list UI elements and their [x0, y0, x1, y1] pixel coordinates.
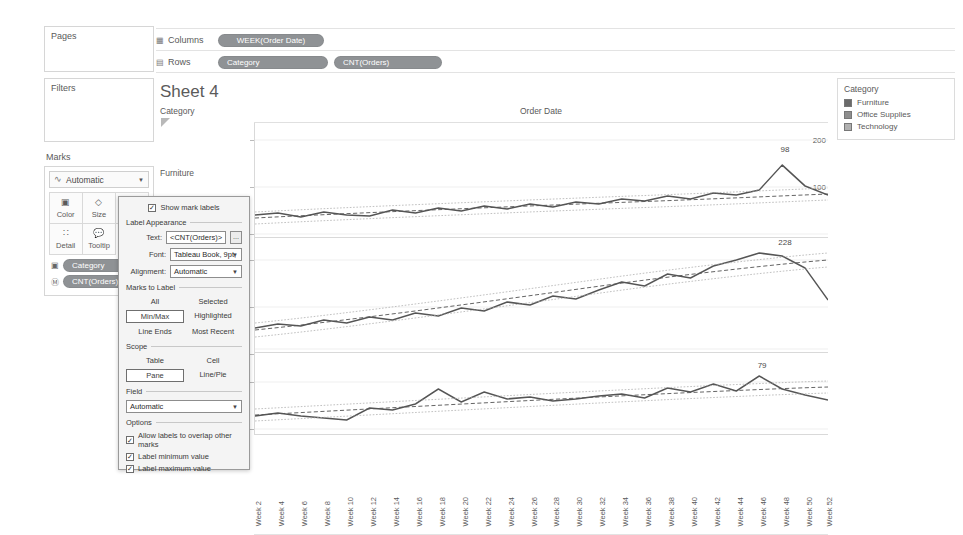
x-tick-label: Week 40: [690, 497, 699, 526]
filters-label: Filters: [45, 79, 153, 96]
x-tick-label: Week 30: [575, 497, 584, 526]
text-edit-ellipsis-button[interactable]: ⋯: [230, 231, 242, 244]
marks-size-button[interactable]: ◇ Size: [82, 192, 116, 224]
x-tick-label: Week 8: [323, 501, 332, 526]
label-icon: Ⓜ: [49, 276, 60, 287]
marks-color-label: Color: [57, 210, 75, 219]
marks-detail-button[interactable]: ∷ Detail: [49, 223, 83, 255]
columns-shelf-bottom-divider: [156, 50, 955, 51]
furniture-line-chart: [255, 123, 828, 237]
scope-option-pane[interactable]: Pane: [126, 369, 184, 382]
scope-options: Table Cell Pane Line/Pie: [126, 355, 242, 382]
x-tick-label: Week 32: [598, 497, 607, 526]
marks-to-label-option-most-recent[interactable]: Most Recent: [184, 326, 242, 337]
marks-to-label-option-all[interactable]: All: [126, 296, 184, 307]
rows-pill-cnt-orders[interactable]: CNT(Orders): [334, 56, 442, 69]
x-tick-label: Week 4: [277, 501, 286, 526]
x-tick-label: Week 42: [713, 497, 722, 526]
x-tick-label: Week 14: [392, 497, 401, 526]
mark-type-dropdown[interactable]: ∿ Automatic ▼: [49, 171, 149, 188]
label-minimum-label: Label minimum value: [138, 452, 209, 461]
rows-shelf-label-wrap: ▤ Rows: [156, 57, 218, 67]
pages-card[interactable]: Pages: [44, 26, 154, 72]
marks-to-label-option-highlighted[interactable]: Highlighted: [184, 310, 242, 323]
x-tick-label: Week 34: [621, 497, 630, 526]
rows-label: Rows: [168, 57, 191, 67]
filters-card[interactable]: Filters: [44, 78, 154, 142]
option-allow-overlap-row[interactable]: ✓ Allow labels to overlap other marks: [126, 431, 242, 449]
detail-icon: ∷: [63, 228, 69, 239]
columns-shelf[interactable]: ▦ Columns WEEK(Order Date): [156, 30, 324, 50]
label-minimum-checkbox[interactable]: ✓: [126, 453, 134, 461]
x-tick-label: Week 18: [438, 497, 447, 526]
marks-to-label-option-selected[interactable]: Selected: [184, 296, 242, 307]
x-tick-label: Week 52: [825, 497, 834, 526]
show-mark-labels-checkbox[interactable]: ✓: [148, 204, 156, 212]
font-field-row[interactable]: Font: Tableau Book, 9pt, ▼: [126, 248, 242, 261]
columns-icon: ▦: [156, 36, 164, 45]
legend-label: Technology: [857, 122, 897, 131]
columns-shelf-label-wrap: ▦ Columns: [156, 35, 218, 45]
row-label-furniture[interactable]: Furniture: [160, 168, 194, 178]
category-field-header[interactable]: Category: [160, 106, 195, 116]
x-tick-label: Week 6: [300, 501, 309, 526]
worksheet-view: Sheet 4 Category Order Date Count of Ord…: [156, 82, 828, 507]
scope-option-line-pie[interactable]: Line/Pie: [184, 369, 242, 382]
columns-pill-week-order-date[interactable]: WEEK(Order Date): [218, 34, 324, 47]
text-field-label: Text:: [126, 233, 162, 242]
scope-group: Scope Table Cell Pane Line/Pie: [126, 342, 242, 382]
marks-to-label-option-line-ends[interactable]: Line Ends: [126, 326, 184, 337]
x-tick-label: Week 48: [782, 497, 791, 526]
text-field-row[interactable]: Text: <CNT(Orders)> ⋯: [126, 231, 242, 244]
x-tick-label: Week 16: [415, 497, 424, 526]
x-tick-label: Week 12: [369, 497, 378, 526]
font-field-dropdown[interactable]: Tableau Book, 9pt, ▼: [170, 248, 242, 261]
show-mark-labels-row[interactable]: ✓ Show mark labels: [126, 203, 242, 212]
x-tick-label: Week 38: [667, 497, 676, 526]
marks-color-button[interactable]: ▣ Color: [49, 192, 83, 224]
label-maximum-checkbox[interactable]: ✓: [126, 465, 134, 473]
marks-tooltip-label: Tooltip: [88, 241, 110, 250]
label-appearance-title: Label Appearance: [126, 218, 242, 227]
option-label-min-row[interactable]: ✓ Label minimum value: [126, 452, 242, 461]
marks-to-label-option-min-max[interactable]: Min/Max: [126, 310, 184, 323]
allow-overlap-label: Allow labels to overlap other marks: [138, 431, 242, 449]
marks-tooltip-button[interactable]: 💬 Tooltip: [82, 223, 116, 255]
label-maximum-label: Label maximum value: [138, 464, 211, 473]
alignment-field-row[interactable]: Alignment: Automatic ▼: [126, 265, 242, 278]
text-field-input[interactable]: <CNT(Orders)>: [166, 231, 226, 244]
chart-panel-furniture[interactable]: 98: [254, 123, 828, 237]
legend-item-technology[interactable]: Technology: [844, 122, 948, 131]
tooltip-icon: 💬: [93, 228, 104, 239]
chart-panel-office-supplies[interactable]: 228: [254, 238, 828, 352]
scope-option-table[interactable]: Table: [126, 355, 184, 366]
label-appearance-group: Label Appearance Text: <CNT(Orders)> ⋯ F…: [126, 218, 242, 278]
column-header-order-date[interactable]: Order Date: [254, 106, 828, 122]
chevron-down-icon: ▼: [232, 252, 238, 258]
x-tick-label: Week 46: [759, 497, 768, 526]
x-tick-label: Week 22: [484, 497, 493, 526]
chevron-down-icon: ▼: [232, 269, 238, 275]
legend-item-office-supplies[interactable]: Office Supplies: [844, 110, 948, 119]
field-dropdown[interactable]: Automatic ▼: [126, 400, 242, 413]
page-title: Sheet 4: [156, 82, 828, 102]
chevron-down-icon: ▼: [232, 404, 238, 410]
alignment-field-dropdown[interactable]: Automatic ▼: [170, 265, 242, 278]
field-title: Field: [126, 387, 242, 396]
color-legend[interactable]: Category Furniture Office Supplies Techn…: [837, 78, 955, 140]
legend-item-furniture[interactable]: Furniture: [844, 98, 948, 107]
allow-overlap-checkbox[interactable]: ✓: [126, 436, 134, 444]
marks-detail-label: Detail: [56, 241, 75, 250]
rows-shelf[interactable]: ▤ Rows Category CNT(Orders): [156, 52, 442, 72]
alignment-field-label: Alignment:: [126, 267, 166, 276]
legend-title: Category: [844, 84, 948, 94]
marks-size-label: Size: [92, 210, 107, 219]
option-label-max-row[interactable]: ✓ Label maximum value: [126, 464, 242, 473]
x-tick-label: Week 10: [346, 497, 355, 526]
legend-label: Furniture: [857, 98, 889, 107]
label-settings-dialog[interactable]: ✓ Show mark labels Label Appearance Text…: [118, 196, 250, 470]
scope-option-cell[interactable]: Cell: [184, 355, 242, 366]
chart-panel-technology[interactable]: 79: [254, 353, 828, 434]
rows-pill-category[interactable]: Category: [218, 56, 328, 69]
